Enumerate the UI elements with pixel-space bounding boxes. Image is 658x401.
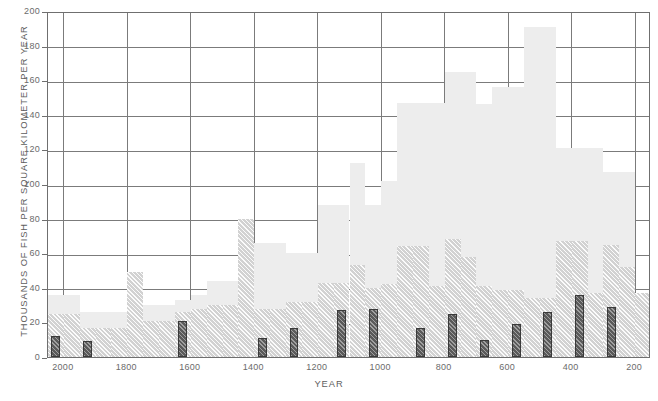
bar-front: [178, 321, 187, 357]
x-tick-label: 1600: [170, 362, 210, 372]
bar-front: [290, 328, 299, 357]
x-tick-label: 600: [487, 362, 527, 372]
x-tick-label: 1200: [297, 362, 337, 372]
x-tick-label: 2000: [43, 362, 83, 372]
bar-front: [83, 341, 92, 357]
x-tick-label: 1400: [233, 362, 273, 372]
bar-front: [51, 336, 60, 357]
plot-area: [47, 12, 650, 358]
bar-front: [258, 338, 267, 357]
x-tick-label: 200: [614, 362, 654, 372]
bar-front: [448, 314, 457, 357]
x-tick-label: 1800: [106, 362, 146, 372]
bar-front: [543, 312, 552, 357]
x-tick-label: 400: [551, 362, 591, 372]
bar-front: [607, 307, 616, 357]
bar-front: [480, 340, 489, 357]
series-front-bars: [48, 13, 649, 357]
x-tick-label: 1000: [360, 362, 400, 372]
bar-front: [416, 328, 425, 357]
bar-front: [512, 324, 521, 357]
chart-figure: THOUSANDS OF FISH PER SQUARE KILOMETER P…: [0, 0, 658, 401]
bar-front: [337, 310, 346, 357]
bar-front: [369, 309, 378, 357]
x-tick-label: 800: [424, 362, 464, 372]
bar-front: [575, 295, 584, 357]
